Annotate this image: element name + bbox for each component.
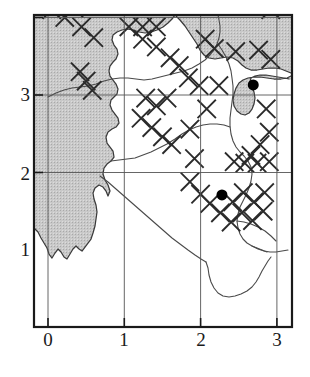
- y-axis-tick-label-0: 3: [10, 85, 30, 104]
- x-axis-tick-label-2: 2: [190, 330, 212, 349]
- sample-site-dot: [216, 189, 227, 200]
- y-axis-tick-label-1: 2: [10, 164, 30, 183]
- sample-site-dot: [248, 79, 259, 90]
- x-axis-tick-label-1: 1: [113, 330, 135, 349]
- x-axis-tick-label-3: 3: [266, 330, 288, 349]
- map-plot-canvas: [0, 0, 310, 377]
- x-axis-tick-label-0: 0: [37, 330, 59, 349]
- map-figure: 0123 321: [0, 0, 310, 377]
- y-axis-tick-label-2: 1: [10, 240, 30, 259]
